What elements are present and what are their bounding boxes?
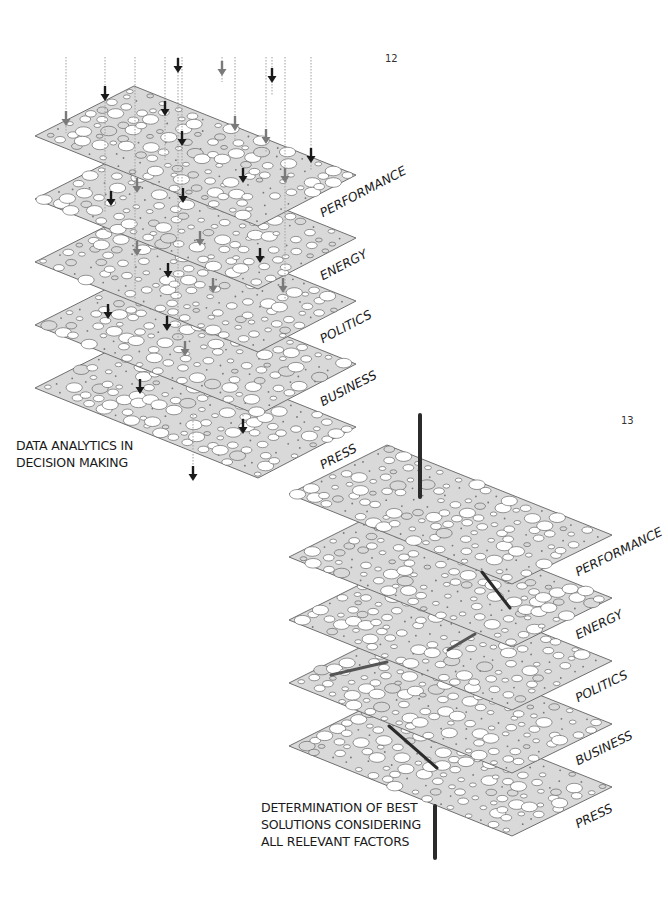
diagram-12-data-analytics: PRESSBUSINESSPOLITICSENERGYPERFORMANCE bbox=[35, 57, 409, 481]
down-arrow-icon bbox=[189, 466, 198, 481]
down-arrow-icon bbox=[218, 61, 227, 76]
down-arrow-icon bbox=[174, 58, 183, 73]
caption-line: DATA ANALYTICS IN bbox=[16, 437, 133, 454]
down-arrow-icon bbox=[268, 68, 277, 83]
caption-line: DECISION MAKING bbox=[16, 454, 133, 471]
page-number-12: 12 bbox=[385, 53, 398, 64]
diagram-13-best-solutions: PRESSBUSINESSPOLITICSENERGYPERFORMANCE bbox=[289, 415, 665, 858]
caption-line: ALL RELEVANT FACTORS bbox=[261, 833, 421, 850]
caption-data-analytics: DATA ANALYTICS IN DECISION MAKING bbox=[16, 437, 133, 471]
caption-line: SOLUTIONS CONSIDERING bbox=[261, 816, 421, 833]
caption-line: DETERMINATION OF BEST bbox=[261, 799, 421, 816]
caption-best-solutions: DETERMINATION OF BEST SOLUTIONS CONSIDER… bbox=[261, 799, 421, 850]
page-number-13: 13 bbox=[621, 415, 634, 426]
layer-label-press: PRESS bbox=[573, 800, 615, 831]
